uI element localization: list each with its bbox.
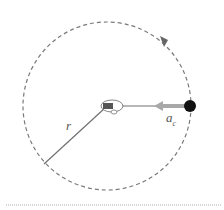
ball bbox=[184, 100, 196, 112]
accel-label: ac bbox=[166, 110, 176, 128]
direction-arrow-icon bbox=[160, 36, 168, 47]
radius-line bbox=[44, 108, 105, 164]
hand-icon bbox=[101, 100, 123, 114]
accel-arrow-head-icon bbox=[154, 101, 163, 111]
radius-label: r bbox=[66, 118, 71, 134]
diagram-canvas bbox=[0, 0, 224, 210]
